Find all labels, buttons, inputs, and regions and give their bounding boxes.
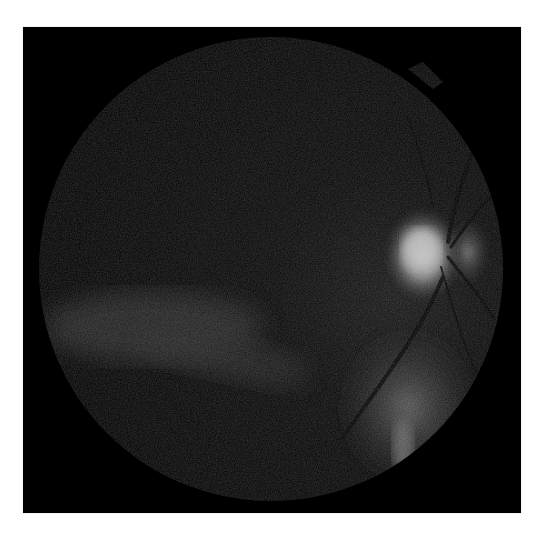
fundus-field: [23, 27, 521, 513]
image-frame: [23, 27, 521, 513]
fundus-image: [23, 27, 521, 513]
